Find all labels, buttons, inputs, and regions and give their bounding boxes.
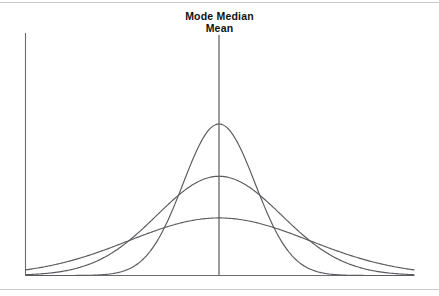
normal-curves-plot xyxy=(0,0,439,296)
curve-group xyxy=(26,124,415,276)
curve-medium xyxy=(26,176,415,274)
curve-short-wide xyxy=(26,218,415,270)
distribution-figure: Mode Median Mean xyxy=(0,0,439,296)
curve-tall-narrow xyxy=(26,124,415,276)
